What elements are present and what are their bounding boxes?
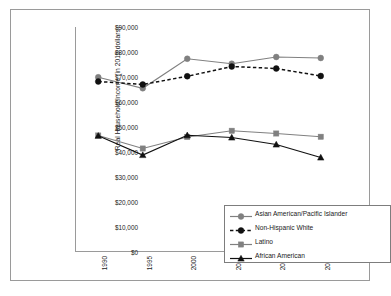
series-line [98,135,321,157]
legend-label: Latino [255,238,273,245]
x-tick-label: 1990 [101,256,108,270]
legend-swatch-square-icon [229,236,253,247]
series-line [98,131,321,149]
legend-label: Asian American/Pacific Islander [255,210,347,217]
data-point-marker [238,242,243,247]
series-1 [95,54,323,91]
series-line [98,57,321,88]
legend-swatch-triangle-icon [229,250,253,261]
legend-swatch-diamond-icon [229,222,253,233]
data-point-marker [273,66,279,72]
x-tick-label: 2000 [190,256,197,270]
data-point-marker [184,73,190,79]
data-point-marker [273,54,279,60]
data-point-marker [238,214,244,220]
data-point-marker [140,152,146,158]
legend-item-4[interactable]: African American [225,249,390,262]
data-point-marker [318,55,324,61]
data-point-marker [229,128,234,133]
legend-swatch-diamond-icon [229,208,253,219]
data-point-marker [229,64,235,70]
legend-label: African American [255,252,305,259]
x-tick-label: 1995 [146,256,153,270]
chart-legend: Asian American/Pacific IslanderNon-Hispa… [224,205,391,263]
legend-label: Non-Hispanic White [255,224,313,231]
data-point-marker [318,73,324,79]
data-point-marker [140,82,146,88]
data-point-marker [184,56,190,62]
legend-item-3[interactable]: Latino [225,235,390,248]
data-point-marker [140,146,145,151]
series-2 [95,64,323,88]
legend-item-2[interactable]: Non-Hispanic White [225,221,390,234]
series-line [98,67,321,85]
series-4 [95,132,324,160]
data-point-marker [318,134,323,139]
data-point-marker [95,79,101,85]
data-point-marker [238,228,244,234]
data-point-marker [274,131,279,136]
legend-item-1[interactable]: Asian American/Pacific Islander [225,207,390,220]
plot-area: Real Household Income (in 2015 dollars) … [75,27,342,252]
